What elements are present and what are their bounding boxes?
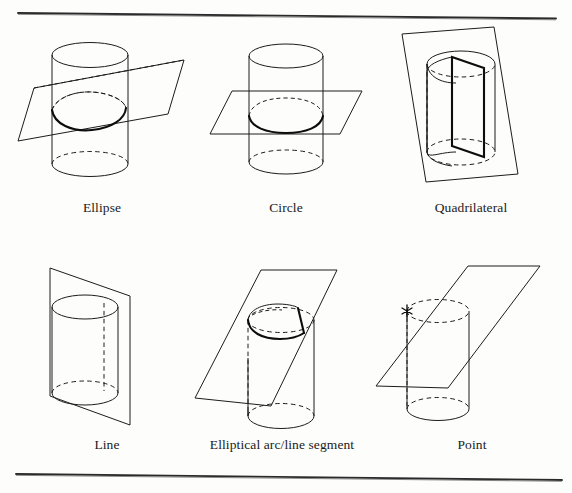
circle-intersection-diagram	[196, 34, 376, 184]
panel-quadrilateral	[378, 24, 564, 189]
panel-elliptical-arc	[186, 258, 378, 430]
cylinder	[249, 44, 323, 174]
bottom-rule-container	[0, 466, 572, 486]
cylinder	[407, 300, 469, 421]
elliptical-arc-intersection-diagram	[186, 258, 378, 430]
caption-line: Line	[22, 437, 192, 453]
tangent-point-asterisk	[402, 305, 412, 317]
intersection-quadrilateral	[452, 57, 484, 157]
intersection-circle	[249, 98, 323, 133]
figure-page: Ellipse Circle	[0, 0, 572, 493]
cutting-plane	[376, 266, 540, 388]
caption-circle: Circle	[196, 200, 376, 216]
top-horizontal-rule	[0, 6, 572, 24]
cutting-plane	[210, 91, 362, 134]
panel-line	[22, 260, 192, 425]
ellipse-intersection-diagram	[12, 34, 192, 184]
caption-ellipse: Ellipse	[12, 200, 192, 216]
point-intersection-diagram	[376, 258, 568, 430]
cylinder	[52, 43, 128, 177]
top-rule-container	[0, 6, 572, 24]
caption-point: Point	[376, 437, 568, 453]
bottom-horizontal-rule	[0, 466, 572, 486]
quadrilateral-intersection-diagram	[378, 24, 564, 189]
panel-circle	[196, 34, 376, 184]
cylinder	[248, 308, 314, 429]
caption-quadrilateral: Quadrilateral	[378, 200, 564, 216]
intersection-arc-and-segment	[248, 304, 304, 339]
line-intersection-diagram	[22, 260, 192, 425]
cylinder	[52, 295, 118, 405]
panel-ellipse	[12, 34, 192, 184]
panel-point	[376, 258, 568, 430]
caption-elliptical-arc: Elliptical arc/line segment	[186, 437, 378, 453]
cutting-plane	[402, 27, 518, 182]
